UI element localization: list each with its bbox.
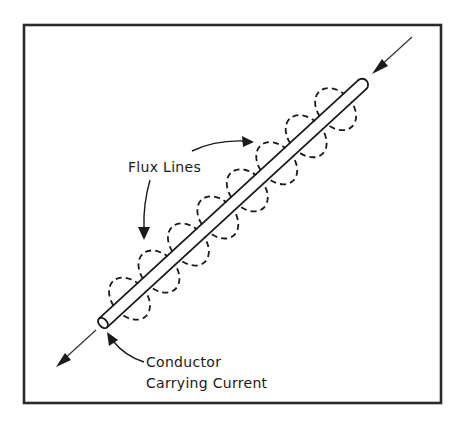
conductor-label-line1: Conductor xyxy=(146,354,221,370)
flux-leader-upper xyxy=(192,136,254,151)
flux-leader-lower xyxy=(138,180,150,240)
arrowhead-icon xyxy=(242,136,254,147)
conductor-flux-diagram: Flux Lines Conductor Carrying Current xyxy=(0,0,458,421)
conductor-label-line2: Carrying Current xyxy=(146,375,268,391)
conductor-leader xyxy=(107,332,144,362)
current-arrow-in xyxy=(372,37,412,74)
diagram-frame xyxy=(24,25,441,403)
arrowhead-icon xyxy=(138,227,150,240)
flux-lines-label: Flux Lines xyxy=(128,159,201,175)
current-arrow-out xyxy=(56,330,96,367)
flux-lines xyxy=(84,63,383,343)
